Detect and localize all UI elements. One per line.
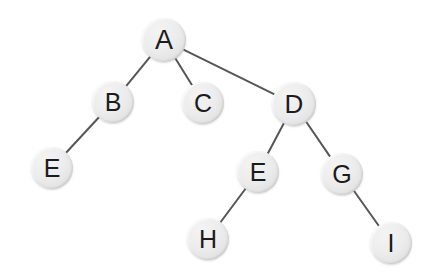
- tree-node-b[interactable]: B: [92, 81, 134, 123]
- tree-node-c[interactable]: C: [182, 82, 224, 124]
- tree-node-a[interactable]: A: [142, 18, 186, 62]
- tree-node-label: E: [250, 160, 267, 185]
- tree-node-label: I: [388, 231, 395, 256]
- tree-node-label: B: [105, 90, 122, 115]
- tree-node-i[interactable]: I: [370, 222, 412, 264]
- tree-node-label: G: [332, 162, 351, 187]
- tree-node-g[interactable]: G: [321, 153, 363, 195]
- tree-node-d[interactable]: D: [272, 82, 316, 126]
- tree-node-label: H: [199, 227, 217, 252]
- tree-node-e1[interactable]: E: [31, 147, 73, 189]
- tree-node-label: E: [44, 156, 61, 181]
- tree-node-h[interactable]: H: [187, 218, 229, 260]
- tree-diagram: ABCDEEGHI: [0, 0, 437, 280]
- node-layer: ABCDEEGHI: [0, 0, 437, 280]
- tree-node-label: C: [194, 91, 212, 116]
- tree-node-label: A: [155, 27, 173, 54]
- tree-node-e2[interactable]: E: [237, 151, 279, 193]
- tree-node-label: D: [285, 91, 304, 117]
